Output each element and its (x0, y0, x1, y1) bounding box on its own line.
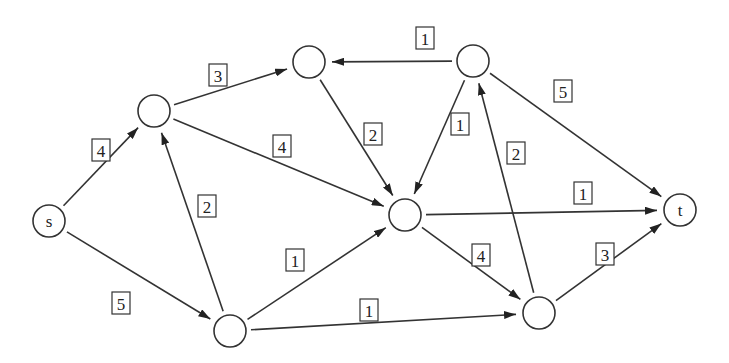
capacity-label: 4 (273, 135, 291, 157)
edge-e-to-f (251, 314, 516, 329)
arrow-line (174, 69, 287, 105)
capacity-labels-layer: 453422115111423 (92, 27, 614, 321)
node-s: s (33, 205, 65, 237)
arrow-line (490, 73, 661, 196)
capacity-label: 2 (198, 195, 216, 217)
arrow-line (67, 232, 210, 319)
capacity-label: 5 (112, 292, 130, 314)
capacity-label: 2 (507, 142, 525, 164)
capacity-value: 4 (278, 138, 287, 157)
edge-s-to-e (67, 232, 210, 319)
capacity-value: 1 (421, 30, 430, 49)
capacity-label: 1 (360, 299, 378, 321)
edge-c-to-d (414, 80, 464, 194)
arrow-line (414, 80, 464, 194)
edge-d-to-t (426, 210, 657, 214)
edge-c-to-t (490, 73, 661, 196)
edge-e-to-a (162, 133, 224, 311)
flow-network-diagram: 453422115111423 st (0, 0, 729, 363)
capacity-value: 1 (456, 116, 465, 135)
arrow-line (422, 227, 520, 299)
node-label: s (46, 212, 53, 231)
capacity-value: 1 (579, 185, 588, 204)
capacity-label: 4 (92, 139, 110, 161)
capacity-label: 2 (364, 123, 382, 145)
arrow-line (332, 61, 452, 62)
arrow-line (426, 210, 657, 214)
capacity-value: 5 (559, 83, 568, 102)
node-b (293, 46, 325, 78)
node-c (457, 45, 489, 77)
capacity-value: 2 (512, 145, 521, 164)
arrow-line (162, 133, 224, 311)
capacity-value: 2 (203, 198, 212, 217)
node-e (214, 315, 246, 347)
capacity-label: 4 (472, 244, 490, 266)
node-f (523, 297, 555, 329)
node-a (138, 95, 170, 127)
capacity-label: 3 (209, 64, 227, 86)
capacity-label: 3 (596, 243, 614, 265)
capacity-value: 4 (477, 247, 486, 266)
capacity-label: 1 (286, 249, 304, 271)
capacity-value: 1 (291, 252, 300, 271)
node-d (389, 199, 421, 231)
capacity-value: 2 (369, 126, 378, 145)
capacity-label: 1 (416, 27, 434, 49)
capacity-value: 3 (214, 67, 223, 86)
capacity-value: 4 (97, 142, 106, 161)
arrow-line (251, 314, 516, 329)
node-t: t (664, 194, 696, 226)
capacity-value: 1 (365, 302, 374, 321)
capacity-value: 5 (117, 295, 126, 314)
capacity-value: 3 (601, 246, 610, 265)
edge-d-to-f (422, 227, 520, 299)
edge-c-to-b (332, 61, 452, 62)
capacity-label: 1 (451, 113, 469, 135)
capacity-label: 1 (574, 182, 592, 204)
node-label: t (678, 201, 683, 220)
graph-canvas: 453422115111423 st (0, 0, 729, 363)
capacity-label: 5 (554, 80, 572, 102)
edge-a-to-b (174, 69, 287, 105)
